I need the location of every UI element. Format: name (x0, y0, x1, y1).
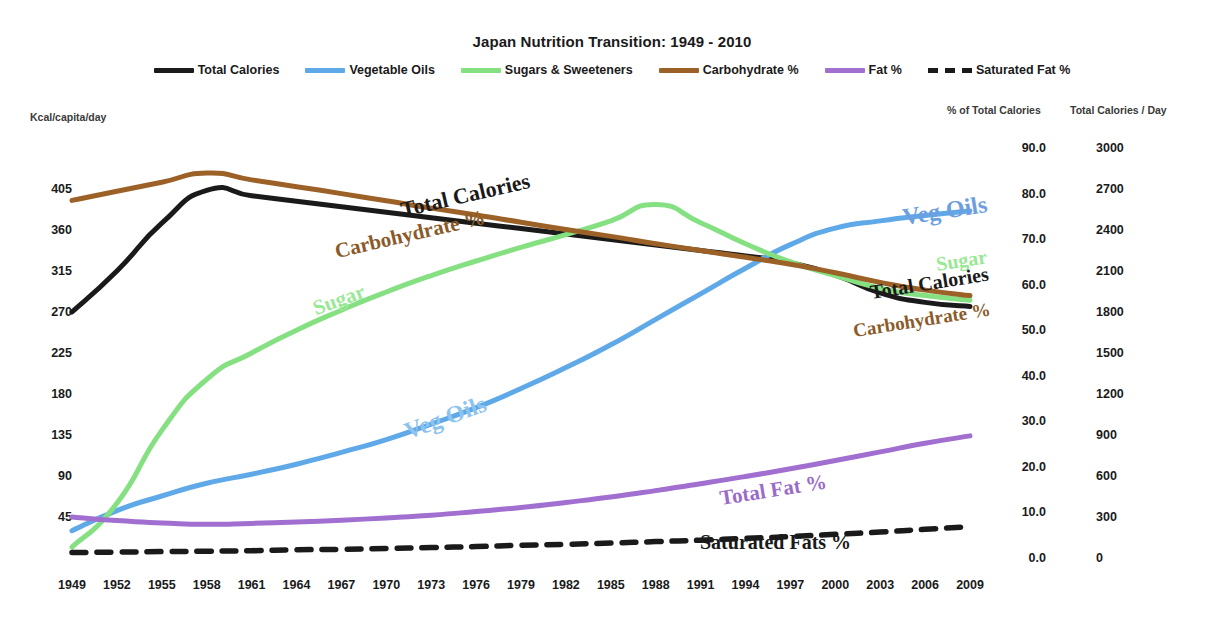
series-line-vegetable-oils (72, 211, 970, 531)
series-line-sugars-sweeteners (72, 204, 970, 547)
chart-annotation: Saturated Fats % (700, 531, 851, 554)
nutrition-line-chart: Japan Nutrition Transition: 1949 - 2010 … (0, 0, 1224, 632)
series-line-fat (72, 436, 970, 524)
plot-area (0, 0, 1224, 632)
series-canvas (0, 0, 1224, 632)
